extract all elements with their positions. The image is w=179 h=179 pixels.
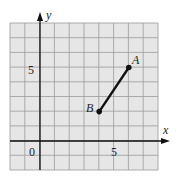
x-axis-arrow-icon bbox=[161, 138, 170, 144]
point-b-label: B bbox=[86, 101, 94, 115]
origin-label: 0 bbox=[29, 145, 35, 159]
x-tick-5-label: 5 bbox=[111, 145, 117, 159]
y-axis-arrow-icon bbox=[37, 12, 43, 21]
point-a-label: A bbox=[131, 53, 140, 67]
x-axis-label: x bbox=[162, 123, 169, 137]
point-a bbox=[126, 65, 132, 71]
point-b bbox=[96, 109, 102, 115]
coordinate-plane: y x 0 5 5 A B bbox=[0, 0, 179, 179]
y-axis-label: y bbox=[45, 8, 52, 22]
y-tick-5-label: 5 bbox=[28, 63, 34, 77]
